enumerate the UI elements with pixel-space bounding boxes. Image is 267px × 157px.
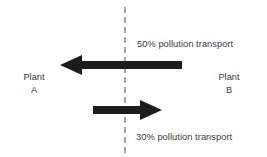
plant-a-identifier: A xyxy=(8,84,60,97)
region-boundary-dashed-line xyxy=(124,7,126,153)
flow-label-30-percent: 30% pollution transport xyxy=(136,131,232,143)
plant-b-name: Plant xyxy=(203,71,255,84)
node-label-plant-b: Plant B xyxy=(203,71,255,96)
pollution-transport-diagram: 50% pollution transport 30% pollution tr… xyxy=(0,0,267,157)
node-label-plant-a: Plant A xyxy=(8,71,60,96)
plant-b-identifier: B xyxy=(203,84,255,97)
flow-label-50-percent: 50% pollution transport xyxy=(137,38,233,50)
arrow-left-pollution-flow-icon xyxy=(60,54,182,76)
arrow-right-pollution-flow-icon xyxy=(93,99,162,121)
plant-a-name: Plant xyxy=(8,71,60,84)
